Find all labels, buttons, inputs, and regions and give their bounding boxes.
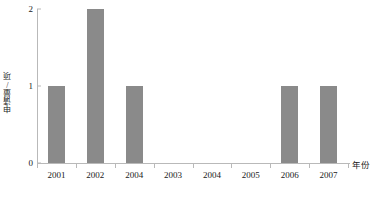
bar: [320, 86, 337, 163]
y-axis-tick-mark: [37, 86, 41, 87]
bar: [48, 86, 65, 163]
x-axis-tick-mark: [231, 164, 232, 168]
x-axis-tick-label: 2005: [242, 170, 260, 180]
x-axis-tick-mark: [309, 164, 310, 168]
x-axis-title: 年份: [352, 158, 370, 170]
bar: [281, 86, 298, 163]
x-axis-tick-label: 2001: [47, 170, 65, 180]
x-axis-tick-mark: [348, 164, 349, 168]
y-axis-tick-mark: [37, 9, 41, 10]
x-axis-tick-mark: [270, 164, 271, 168]
bar: [87, 9, 104, 163]
y-axis-tick-labels: 0 1 2: [19, 0, 33, 197]
y-axis-title: 申请量/项: [3, 58, 17, 128]
x-axis-tick-label: 2006: [281, 170, 299, 180]
y-axis-line: [37, 9, 38, 164]
x-axis-tick-mark: [115, 164, 116, 168]
x-axis-tick-label: 2004: [125, 170, 143, 180]
x-axis-tick-mark: [154, 164, 155, 168]
x-axis-tick-mark: [76, 164, 77, 168]
x-axis-line: [37, 163, 350, 164]
x-axis-tick-label: 2007: [320, 170, 338, 180]
y-axis-tick-label: 2: [21, 4, 33, 14]
y-axis-tick-label: 0: [21, 158, 33, 168]
x-axis-tick-label: 2004: [203, 170, 221, 180]
x-axis-tick-mark: [193, 164, 194, 168]
bar: [126, 86, 143, 163]
x-axis-tick-label: 2003: [164, 170, 182, 180]
bar-chart: 申请量/项 0 1 2 2001200220042003200420052006…: [0, 0, 386, 197]
x-axis-tick-mark: [37, 164, 38, 168]
x-axis-tick-label: 2002: [86, 170, 104, 180]
y-axis-tick-label: 1: [21, 81, 33, 91]
